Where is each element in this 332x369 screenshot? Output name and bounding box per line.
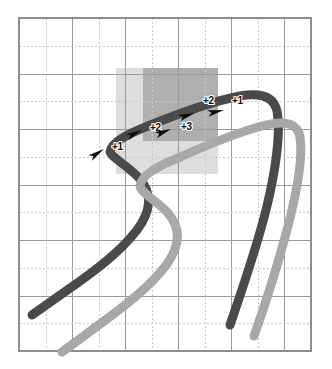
figure-container: +1+2+3+2+1 <box>0 0 332 369</box>
marker-label: +1 <box>232 95 244 106</box>
marker-label: +2 <box>203 95 215 106</box>
arrow-icon <box>88 146 105 161</box>
marker-label: +3 <box>181 121 193 132</box>
marker-label: +1 <box>112 141 124 152</box>
figure-canvas: +1+2+3+2+1 <box>0 0 332 369</box>
